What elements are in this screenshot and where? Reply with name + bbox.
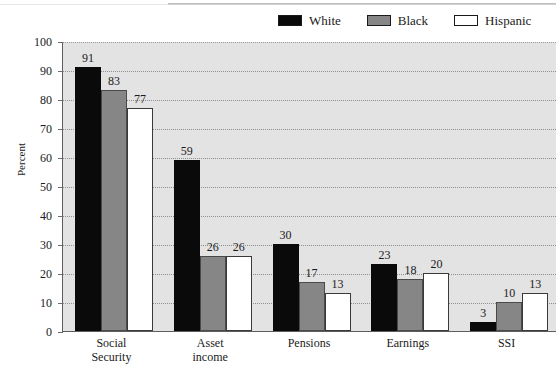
- bar-group-bars: 231820: [371, 42, 449, 331]
- x-axis-category-label: Earnings: [358, 336, 457, 350]
- legend-swatch-icon-black: [367, 15, 391, 26]
- bar-group-bars: 918377: [75, 42, 153, 331]
- bar-value-label: 3: [480, 306, 486, 321]
- y-tick-label: 40: [0, 209, 52, 224]
- y-tick-mark: [58, 42, 63, 43]
- bar-slot: 18: [397, 42, 423, 331]
- y-tick-mark: [58, 158, 63, 159]
- bar-group-bars: 592626: [174, 42, 252, 331]
- bar-group-bars: 31013: [470, 42, 548, 331]
- bar-value-label: 23: [378, 248, 390, 263]
- y-tick-label: 50: [0, 180, 52, 195]
- y-tick-mark: [58, 274, 63, 275]
- x-axis-category-label: SSI: [457, 336, 556, 350]
- legend-item-white: White: [278, 14, 341, 27]
- y-tick-mark: [58, 216, 63, 217]
- bar[interactable]: [101, 90, 127, 331]
- bar[interactable]: [200, 256, 226, 331]
- legend-label-white: White: [309, 14, 341, 27]
- bar-slot: 3: [470, 42, 496, 331]
- y-tick-label: 90: [0, 64, 52, 79]
- bar[interactable]: [226, 256, 252, 331]
- x-axis-category-label: Social Security: [62, 336, 161, 364]
- legend-item-hispanic: Hispanic: [454, 14, 531, 27]
- bar-slot: 13: [325, 42, 351, 331]
- y-tick-mark: [58, 129, 63, 130]
- y-tick-label: 30: [0, 238, 52, 253]
- bar[interactable]: [325, 293, 351, 331]
- bar-value-label: 91: [82, 51, 94, 66]
- x-axis-category-label: Asset income: [161, 336, 260, 364]
- top-rule: [168, 3, 556, 5]
- bar-value-label: 83: [108, 74, 120, 89]
- y-tick-label: 60: [0, 151, 52, 166]
- bar-group: 592626: [174, 42, 252, 331]
- bar-slot: 20: [423, 42, 449, 331]
- bar-value-label: 59: [181, 144, 193, 159]
- y-tick-mark: [58, 332, 63, 333]
- y-tick-mark: [58, 71, 63, 72]
- bar-group: 31013: [470, 42, 548, 331]
- bar-slot: 26: [226, 42, 252, 331]
- bar-slot: 91: [75, 42, 101, 331]
- y-tick-mark: [58, 303, 63, 304]
- y-tick-label: 100: [0, 35, 52, 50]
- bar-value-label: 18: [404, 263, 416, 278]
- legend-label-hispanic: Hispanic: [485, 14, 531, 27]
- bar[interactable]: [470, 322, 496, 331]
- y-tick-label: 70: [0, 122, 52, 137]
- x-axis-category-label: Pensions: [260, 336, 359, 350]
- bar[interactable]: [522, 293, 548, 331]
- bar[interactable]: [127, 108, 153, 331]
- top-rule-left: [0, 4, 168, 5]
- bar-value-label: 20: [430, 257, 442, 272]
- bar[interactable]: [75, 67, 101, 331]
- legend-swatch-icon-hispanic: [454, 15, 478, 26]
- bar-slot: 59: [174, 42, 200, 331]
- bar-slot: 26: [200, 42, 226, 331]
- y-tick-mark: [58, 245, 63, 246]
- plot-inner: 91837759262630171323182031013: [63, 42, 556, 331]
- chart-legend: White Black Hispanic: [278, 14, 531, 27]
- bar-group: 918377: [75, 42, 153, 331]
- bar-slot: 17: [299, 42, 325, 331]
- bar-value-label: 77: [134, 92, 146, 107]
- bar-slot: 10: [496, 42, 522, 331]
- bar[interactable]: [397, 279, 423, 331]
- bar-value-label: 13: [332, 277, 344, 292]
- y-tick-label: 20: [0, 267, 52, 282]
- y-tick-label: 80: [0, 93, 52, 108]
- bar[interactable]: [174, 160, 200, 331]
- plot-area: 91837759262630171323182031013: [62, 42, 556, 332]
- bar-group-bars: 301713: [273, 42, 351, 331]
- bar-slot: 23: [371, 42, 397, 331]
- bar-slot: 83: [101, 42, 127, 331]
- bar[interactable]: [273, 244, 299, 331]
- bar[interactable]: [299, 282, 325, 331]
- y-tick-mark: [58, 100, 63, 101]
- bar-chart-figure: White Black Hispanic Percent 91837759262…: [0, 0, 556, 372]
- bar-value-label: 26: [233, 240, 245, 255]
- bar-value-label: 26: [207, 240, 219, 255]
- bar[interactable]: [496, 302, 522, 331]
- bar-value-label: 30: [280, 228, 292, 243]
- bar[interactable]: [371, 264, 397, 331]
- legend-swatch-icon-white: [278, 15, 302, 26]
- y-tick-label: 10: [0, 296, 52, 311]
- bar-group: 231820: [371, 42, 449, 331]
- bar-group: 301713: [273, 42, 351, 331]
- bar[interactable]: [423, 273, 449, 331]
- bar-slot: 30: [273, 42, 299, 331]
- bar-slot: 77: [127, 42, 153, 331]
- legend-item-black: Black: [367, 14, 428, 27]
- bar-value-label: 13: [529, 277, 541, 292]
- y-tick-mark: [58, 187, 63, 188]
- bar-value-label: 17: [306, 266, 318, 281]
- bar-slot: 13: [522, 42, 548, 331]
- legend-label-black: Black: [398, 14, 428, 27]
- y-tick-label: 0: [0, 325, 52, 340]
- bar-value-label: 10: [503, 286, 515, 301]
